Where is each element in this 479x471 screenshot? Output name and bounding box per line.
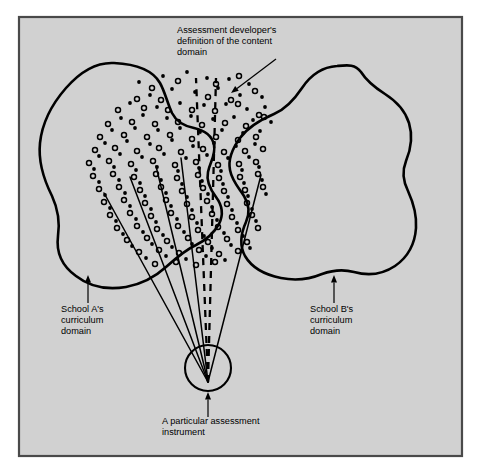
content-item-ring <box>128 211 133 216</box>
content-item-ring <box>153 262 158 267</box>
content-item-dot <box>206 192 210 196</box>
figure-root: Assessment developer'sdefinition of the … <box>0 0 479 471</box>
content-item-dot <box>148 93 152 97</box>
content-item-dot <box>156 128 160 132</box>
content-item-ring <box>236 102 241 107</box>
content-item-dot <box>141 230 145 234</box>
content-item-dot <box>110 128 114 132</box>
content-item-ring <box>115 226 120 231</box>
content-item-ring <box>216 163 221 168</box>
content-item-dot <box>125 139 129 143</box>
content-item-dot <box>264 192 268 196</box>
content-item-ring <box>243 188 248 193</box>
content-item-dot <box>184 257 188 261</box>
content-item-dot <box>269 120 273 124</box>
content-item-dot <box>253 142 257 146</box>
content-item-dot <box>191 144 195 148</box>
content-item-dot <box>238 93 242 97</box>
content-item-ring <box>169 211 174 216</box>
content-item-ring <box>190 215 195 220</box>
content-item-dot <box>170 245 174 249</box>
content-item-ring <box>206 95 211 100</box>
content-item-ring <box>173 163 178 168</box>
content-item-dot <box>222 231 226 235</box>
content-item-ring <box>261 147 266 152</box>
content-item-ring <box>142 106 147 111</box>
content-item-dot <box>141 113 145 117</box>
content-item-ring <box>253 89 258 94</box>
content-item-dot <box>178 126 182 130</box>
label-line: School A's <box>61 304 104 314</box>
label-line: curriculum <box>61 315 104 325</box>
content-item-ring <box>256 226 261 231</box>
content-item-ring <box>190 137 195 142</box>
content-item-dot <box>133 126 137 130</box>
content-item-dot <box>224 102 228 106</box>
content-item-dot <box>114 219 118 223</box>
content-item-dot <box>235 221 239 225</box>
content-item-ring <box>91 174 96 179</box>
content-item-dot <box>150 242 154 246</box>
content-item-ring <box>135 224 140 229</box>
content-item-ring <box>122 133 127 138</box>
content-item-ring <box>138 188 143 193</box>
content-item-dot <box>175 217 179 221</box>
label-line: instrument <box>162 427 205 437</box>
content-item-dot <box>148 142 152 146</box>
content-item-dot <box>119 116 123 120</box>
content-item-ring <box>116 108 121 113</box>
content-item-ring <box>180 189 185 194</box>
content-item-dot <box>226 195 230 199</box>
content-item-ring <box>229 98 234 103</box>
content-item-dot <box>134 168 138 172</box>
content-item-ring <box>132 175 137 180</box>
content-item-ring <box>129 162 134 167</box>
content-item-dot <box>149 207 153 211</box>
content-item-ring <box>176 79 181 84</box>
label-line: domain <box>310 326 340 336</box>
content-item-ring <box>190 108 195 113</box>
content-item-ring <box>87 161 92 166</box>
content-item-ring <box>155 227 160 232</box>
content-item-dot <box>170 138 174 142</box>
content-item-dot <box>123 191 127 195</box>
content-item-dot <box>220 128 224 132</box>
content-item-ring <box>130 120 135 125</box>
content-item-ring <box>217 176 222 181</box>
content-item-dot <box>182 230 186 234</box>
content-item-dot <box>246 194 250 198</box>
content-item-ring <box>107 159 112 164</box>
content-item-ring <box>194 160 199 165</box>
content-item-ring <box>176 224 181 229</box>
content-item-dot <box>138 181 142 185</box>
content-item-dot <box>164 191 168 195</box>
content-item-dot <box>143 194 147 198</box>
content-item-dot <box>230 208 234 212</box>
content-item-dot <box>229 243 233 247</box>
content-item-dot <box>137 80 141 84</box>
content-item-ring <box>135 149 140 154</box>
content-item-ring <box>225 237 230 242</box>
content-item-dot <box>240 168 244 172</box>
content-item-ring <box>153 122 158 127</box>
content-item-dot <box>176 169 180 173</box>
content-item-dot <box>202 103 206 107</box>
content-item-dot <box>161 233 165 237</box>
content-item-ring <box>179 150 184 155</box>
content-item-ring <box>93 148 98 153</box>
content-item-dot <box>260 95 264 99</box>
content-item-dot <box>190 208 194 212</box>
content-item-dot <box>219 169 223 173</box>
content-item-ring <box>237 162 242 167</box>
content-item-dot <box>205 76 209 80</box>
content-item-dot <box>103 141 107 145</box>
content-item-dot <box>247 82 251 86</box>
content-item-ring <box>98 135 103 140</box>
content-item-ring <box>157 146 162 151</box>
content-item-ring <box>213 260 218 265</box>
content-item-dot <box>154 220 158 224</box>
content-item-ring <box>230 215 235 220</box>
content-item-dot <box>164 254 168 258</box>
content-item-dot <box>185 70 189 74</box>
assessment-domain-diagram: Assessment developer'sdefinition of the … <box>0 0 479 471</box>
